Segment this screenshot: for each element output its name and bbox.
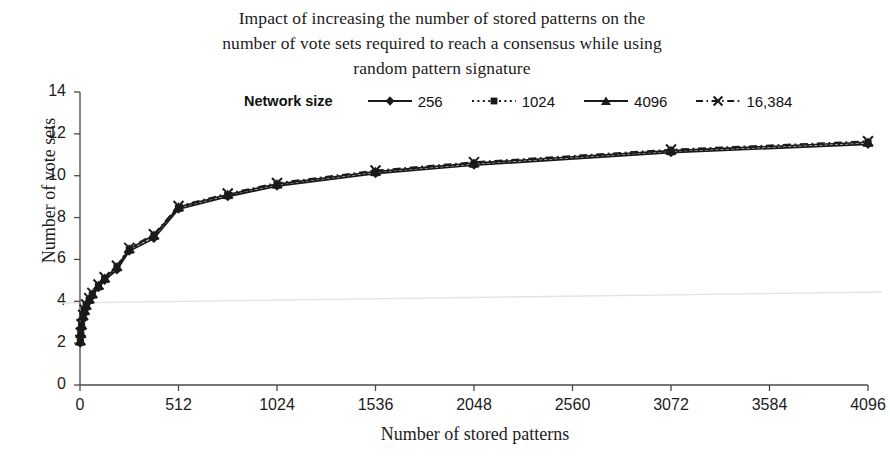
series-line bbox=[80, 142, 868, 341]
series-256 bbox=[76, 140, 873, 348]
scan-artifact-line bbox=[62, 292, 882, 303]
series-line bbox=[80, 141, 868, 340]
series-1024 bbox=[77, 140, 872, 346]
series-line bbox=[80, 144, 868, 343]
series-line bbox=[80, 143, 868, 342]
